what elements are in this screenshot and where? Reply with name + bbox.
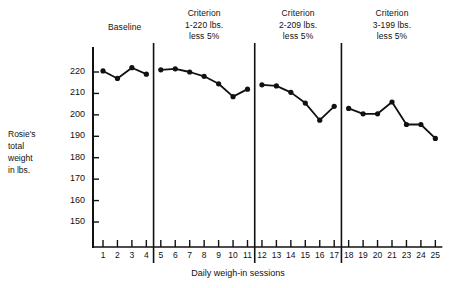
data-point — [202, 74, 207, 79]
data-point — [317, 118, 322, 123]
y-axis-tick-label: 180 — [57, 153, 85, 162]
data-point — [303, 100, 308, 105]
y-axis-tick-label: 160 — [57, 196, 85, 205]
data-point — [158, 67, 163, 72]
y-axis-tick-label: 170 — [57, 174, 85, 183]
data-point — [332, 104, 337, 109]
y-axis-tick-label: 210 — [57, 88, 85, 97]
data-point — [187, 69, 192, 74]
y-axis-tick-label: 190 — [57, 131, 85, 140]
data-point — [245, 87, 250, 92]
data-point — [288, 90, 293, 95]
data-line-segment — [161, 69, 248, 97]
y-axis-tick-label: 150 — [57, 217, 85, 226]
data-point — [361, 111, 366, 116]
weight-chart: Rosie's total weight in lbs. Baseline Cr… — [0, 0, 476, 288]
data-point — [346, 106, 351, 111]
data-point — [144, 72, 149, 77]
data-point — [274, 83, 279, 88]
data-point — [389, 99, 394, 104]
x-axis-title: Daily weigh-in sessions — [0, 268, 476, 278]
y-axis-tick-label: 220 — [57, 67, 85, 76]
data-point — [216, 81, 221, 86]
y-axis-tick-label: 200 — [57, 110, 85, 119]
data-point — [129, 65, 134, 70]
data-line-segment — [262, 85, 334, 120]
data-point — [259, 82, 264, 87]
data-point — [404, 122, 409, 127]
plot-area — [0, 0, 476, 288]
data-point — [173, 66, 178, 71]
data-line-segment — [349, 102, 436, 138]
x-axis-tick-label: 25 — [427, 251, 443, 260]
data-point — [115, 76, 120, 81]
data-point — [418, 122, 423, 127]
data-point — [100, 68, 105, 73]
data-line-segment — [103, 68, 146, 79]
data-point — [230, 94, 235, 99]
data-point — [375, 111, 380, 116]
data-point — [433, 136, 438, 141]
